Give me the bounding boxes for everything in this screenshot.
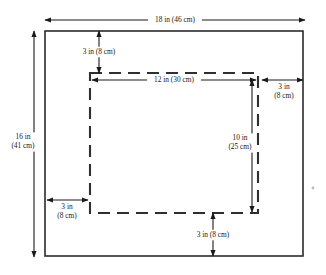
dimension-diagram: 18 in (46 cm)16 in(41 cm)3 in (8 cm)12 i… bbox=[0, 0, 326, 275]
dimension-top-margin: 3 in (8 cm) bbox=[76, 31, 122, 73]
dimension-overall-width: 18 in (46 cm) bbox=[45, 15, 305, 26]
dimension-label: 18 in (46 cm) bbox=[155, 15, 196, 24]
outer-sheet-rect bbox=[45, 31, 303, 256]
dimension-bottom-margin: 3 in (8 cm) bbox=[190, 213, 236, 256]
page-speck bbox=[312, 187, 315, 190]
dimension-label: 12 in (30 cm) bbox=[154, 75, 195, 84]
dimension-left-margin: 3 in(8 cm) bbox=[47, 200, 88, 222]
dimension-inner-height: 10 in(25 cm) bbox=[224, 80, 255, 212]
dimension-label: 3 in (8 cm) bbox=[197, 230, 230, 239]
dimension-label: (8 cm) bbox=[57, 211, 77, 220]
dimension-label: (8 cm) bbox=[274, 91, 294, 100]
dimension-right-margin: 3 in(8 cm) bbox=[262, 80, 303, 102]
dimension-overall-height: 16 in(41 cm) bbox=[7, 31, 38, 257]
diagram-canvas: 18 in (46 cm)16 in(41 cm)3 in (8 cm)12 i… bbox=[0, 0, 326, 275]
dimension-label: (25 cm) bbox=[228, 142, 252, 151]
dimension-label: (41 cm) bbox=[11, 141, 35, 150]
dimension-inner-width: 12 in (30 cm) bbox=[92, 75, 256, 86]
dimension-layer: 18 in (46 cm)16 in(41 cm)3 in (8 cm)12 i… bbox=[7, 15, 305, 257]
dimension-label: 3 in (8 cm) bbox=[83, 47, 116, 56]
outer-sheet-group bbox=[45, 31, 303, 256]
